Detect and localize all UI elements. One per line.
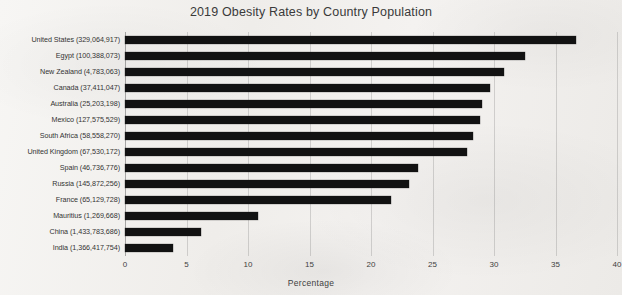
bar-category-label: South Africa (58,558,270) bbox=[40, 128, 120, 144]
x-tick-label-10: 10 bbox=[244, 260, 253, 269]
x-tick-label-35: 35 bbox=[551, 260, 560, 269]
bar-category-label: Mauritius (1,269,668) bbox=[53, 208, 120, 224]
bar-category-label: United Kingdom (67,530,172) bbox=[27, 144, 120, 160]
bar bbox=[125, 116, 480, 124]
bar-row: United Kingdom (67,530,172) bbox=[125, 144, 617, 160]
bar-chart: 2019 Obesity Rates by Country Population… bbox=[0, 0, 622, 295]
x-tick-label-25: 25 bbox=[428, 260, 437, 269]
bar bbox=[125, 228, 201, 236]
bar-category-label: New Zealand (4,783,063) bbox=[40, 64, 120, 80]
bar bbox=[125, 180, 409, 188]
bar-category-label: Egypt (100,388,073) bbox=[56, 48, 120, 64]
bar bbox=[125, 132, 473, 140]
gridline-40 bbox=[617, 32, 618, 256]
bar-category-label: China (1,433,783,686) bbox=[50, 224, 120, 240]
bar-row: Russia (145,872,256) bbox=[125, 176, 617, 192]
bar-category-label: Australia (25,203,198) bbox=[50, 96, 120, 112]
x-tick-label-15: 15 bbox=[305, 260, 314, 269]
bar-category-label: United States (329,064,917) bbox=[31, 32, 120, 48]
bar-row: Mexico (127,575,529) bbox=[125, 112, 617, 128]
bar-row: China (1,433,783,686) bbox=[125, 224, 617, 240]
bar bbox=[125, 164, 418, 172]
bar-category-label: Canada (37,411,047) bbox=[54, 80, 120, 96]
bar-row: Egypt (100,388,073) bbox=[125, 48, 617, 64]
bar-row: Australia (25,203,198) bbox=[125, 96, 617, 112]
bar bbox=[125, 100, 482, 108]
bar bbox=[125, 36, 576, 44]
x-tick-label-30: 30 bbox=[490, 260, 499, 269]
bar-category-label: Russia (145,872,256) bbox=[52, 176, 120, 192]
chart-title: 2019 Obesity Rates by Country Population bbox=[0, 5, 622, 19]
bar-row: Mauritius (1,269,668) bbox=[125, 208, 617, 224]
x-axis-ticks: 0510152025303540 bbox=[125, 260, 617, 274]
bar-row: India (1,366,417,754) bbox=[125, 240, 617, 256]
bar-category-label: India (1,366,417,754) bbox=[53, 240, 120, 256]
bar-row: South Africa (58,558,270) bbox=[125, 128, 617, 144]
bar bbox=[125, 68, 504, 76]
bar bbox=[125, 52, 525, 60]
bar-category-label: France (65,129,728) bbox=[56, 192, 120, 208]
plot-area: United States (329,064,917)Egypt (100,38… bbox=[125, 32, 617, 256]
bar bbox=[125, 244, 173, 252]
x-axis-label: Percentage bbox=[0, 278, 622, 288]
x-tick-label-20: 20 bbox=[367, 260, 376, 269]
bar-row: Spain (46,736,776) bbox=[125, 160, 617, 176]
bar-category-label: Mexico (127,575,529) bbox=[51, 112, 120, 128]
bar bbox=[125, 84, 490, 92]
bars-layer: United States (329,064,917)Egypt (100,38… bbox=[125, 32, 617, 256]
x-tick-label-0: 0 bbox=[123, 260, 127, 269]
bar-row: Canada (37,411,047) bbox=[125, 80, 617, 96]
bar bbox=[125, 212, 258, 220]
bar bbox=[125, 148, 467, 156]
x-tick-label-40: 40 bbox=[613, 260, 622, 269]
x-tick-label-5: 5 bbox=[184, 260, 188, 269]
bar-row: France (65,129,728) bbox=[125, 192, 617, 208]
bar-row: New Zealand (4,783,063) bbox=[125, 64, 617, 80]
bar bbox=[125, 196, 391, 204]
bar-row: United States (329,064,917) bbox=[125, 32, 617, 48]
bar-category-label: Spain (46,736,776) bbox=[60, 160, 120, 176]
